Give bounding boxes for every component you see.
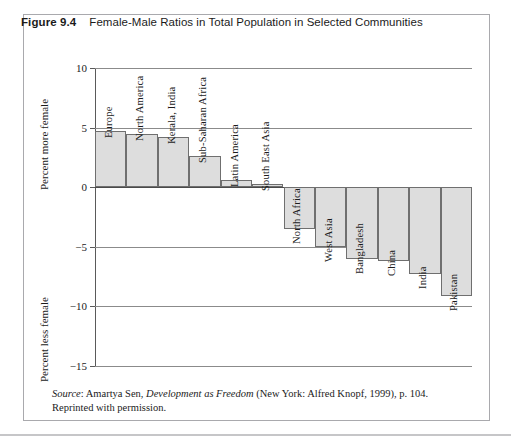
y-tick-label-5: 5 — [82, 122, 88, 134]
bar-label-europe: Europe — [103, 107, 114, 139]
bar-label-north-africa: North Africa — [291, 188, 302, 244]
tick-mark--15 — [90, 366, 95, 367]
source-publication-title: Development as Freedom — [146, 388, 254, 399]
y-tick-label--5: −5 — [75, 241, 87, 253]
bar-label-latin-america: Latin America — [229, 124, 240, 187]
y-tick-label-0: 0 — [82, 181, 88, 193]
chart-plot-area: 1050−5−10−15 EuropeNorth AmericaKerala, … — [95, 68, 472, 366]
bar-label-north-america: North America — [134, 75, 145, 140]
bar-kerala-india — [158, 137, 189, 187]
bar-north-america — [126, 134, 157, 188]
bar-label-china: China — [386, 250, 397, 276]
y-tick-label--15: −15 — [70, 360, 87, 372]
axis-title-percent-less-female: Percent less female — [38, 297, 50, 382]
page-bottom-rule — [0, 434, 511, 436]
y-tick-label--10: −10 — [70, 300, 87, 312]
chart-bars: EuropeNorth AmericaKerala, IndiaSub-Saha… — [95, 68, 472, 366]
bar-india — [409, 187, 440, 274]
figure-title: Female-Male Ratios in Total Population i… — [89, 16, 422, 28]
axis-title-percent-more-female: Percent more female — [38, 99, 50, 190]
figure-caption: Figure 9.4Female-Male Ratios in Total Po… — [21, 16, 423, 28]
source-note: Source: Amartya Sen, Development as Free… — [52, 387, 472, 415]
y-tick-label-10: 10 — [76, 62, 87, 74]
bar-label-south-east-asia: South East Asia — [260, 121, 271, 191]
source-label: Source — [52, 388, 81, 399]
bar-label-west-asia: West Asia — [323, 218, 334, 262]
source-text-before: : Amartya Sen, — [81, 388, 146, 399]
gridline--15 — [95, 366, 472, 367]
bar-label-india: India — [417, 267, 428, 290]
figure-number: Figure 9.4 — [21, 16, 76, 28]
bar-label-bangladesh: Bangladesh — [354, 223, 365, 274]
bar-europe — [95, 131, 126, 187]
bar-label-kerala-india: Kerala, India — [166, 87, 177, 144]
bar-label-pakistan: Pakistan — [448, 273, 459, 310]
bar-label-sub-saharan-africa: Sub-Saharan Africa — [197, 77, 208, 163]
